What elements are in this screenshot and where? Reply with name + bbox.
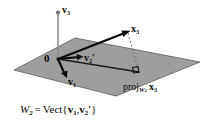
label-v2-prime: v2′ (84, 53, 95, 64)
label-x3: x3 (131, 24, 139, 35)
label-v1-sub: 1 (73, 81, 76, 88)
v3-tip-dot (56, 10, 60, 14)
label-origin: 0 (44, 53, 50, 64)
label-v1: v1 (68, 77, 76, 88)
label-v3: v3 (62, 5, 70, 16)
caption-close-brace: } (91, 103, 96, 115)
label-projection-arg-sub: 3 (154, 86, 157, 93)
label-projection-op: proj (123, 81, 139, 92)
label-projection: projW2x3 (123, 82, 157, 94)
projection-figure: v3 x3 v2′ v1 0 projW2x3 W2=Vect{v1,v2′} (0, 0, 210, 128)
caption-operator: Vect (43, 103, 63, 115)
caption-equals: = (35, 103, 41, 115)
label-projection-subspace-index: 2 (145, 88, 147, 93)
label-v3-sub: 3 (67, 9, 70, 16)
label-v2-prime-mark: ′ (92, 52, 95, 63)
caption-space: W (20, 103, 29, 115)
label-x3-sub: 3 (136, 28, 139, 35)
caption-span-definition: W2=Vect{v1,v2′} (20, 104, 97, 117)
origin-dot (56, 57, 59, 60)
vector-x3-arrowhead (122, 30, 131, 37)
caption-space-sub: 2 (29, 109, 32, 116)
